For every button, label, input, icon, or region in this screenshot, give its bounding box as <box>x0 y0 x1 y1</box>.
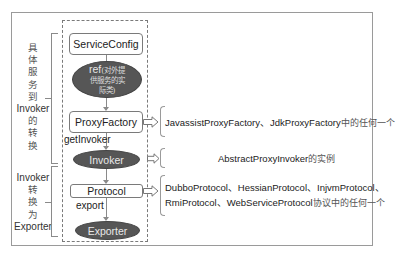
node-label: ProxyFactory <box>75 116 137 128</box>
connector-invoker-protocol <box>106 169 107 180</box>
connector-ref-proxyfactory <box>106 97 107 107</box>
node-protocol: Protocol <box>70 184 143 198</box>
hollow-arrow-icon <box>147 153 160 164</box>
label-char: 务 <box>13 79 53 91</box>
node-exporter: Exporter <box>75 221 140 240</box>
label-char: 的 <box>13 115 53 127</box>
label-word: Invoker <box>13 103 53 115</box>
ref-prefix: ref <box>89 63 101 75</box>
connector-protocol-exporter <box>106 197 107 217</box>
edge-label-getinvoker: getInvoker <box>64 134 111 145</box>
ref-line-1: ref(对外提 <box>89 64 125 76</box>
node-label: Protocol <box>87 185 126 197</box>
label-char: 转 <box>13 127 53 139</box>
node-proxyfactory: ProxyFactory <box>69 111 143 133</box>
left-bracket-bottom <box>51 166 58 237</box>
annotation-suffix: 协议中的任何一个 <box>313 198 385 208</box>
ref-desc: 际类) <box>99 86 116 96</box>
left-bracket-top <box>51 33 58 164</box>
hollow-arrow-icon <box>143 185 159 197</box>
right-brace-invoker <box>160 148 165 168</box>
annotation-protocol: DubboProtocol、HessianProtocol、InjvmProto… <box>165 180 370 211</box>
left-bracket-top-tick <box>45 98 51 99</box>
hollow-arrow-icon <box>143 116 159 128</box>
annotation-text: JavassistProxyFactory、JdkProxyFactory <box>165 117 341 128</box>
ref-desc: 供服务的实 <box>90 76 125 86</box>
annotation-line: DubboProtocol、HessianProtocol、InjvmProto… <box>165 180 370 195</box>
node-label: ServiceConfig <box>73 38 138 50</box>
annotation-invoker: AbstractProxyInvoker的实例 <box>218 151 335 167</box>
annotation-suffix: 中的任何一个 <box>341 118 395 128</box>
label-char: 服 <box>13 66 53 78</box>
node-ref: ref(对外提 供服务的实 际类) <box>72 61 142 98</box>
left-bracket-bottom-tick <box>45 202 51 203</box>
label-char: 换 <box>13 140 53 152</box>
annotation-line: RmiProtocol、WebServiceProtocol协议中的任何一个 <box>165 195 370 211</box>
node-label: Exporter <box>88 225 128 237</box>
annotation-suffix: 的实例 <box>308 154 335 164</box>
label-char: 具 <box>13 42 53 54</box>
annotation-text: AbstractProxyInvoker <box>218 153 308 164</box>
edge-label-export: export <box>76 200 104 211</box>
label-word: Exporter <box>11 221 55 233</box>
annotation-text: RmiProtocol、WebServiceProtocol <box>165 197 313 208</box>
left-label-service-to-invoker: 具 体 服 务 到 Invoker 的 转 换 <box>13 42 53 152</box>
label-char: 转 <box>11 184 55 196</box>
label-char: 为 <box>11 209 55 221</box>
label-word: Invoker <box>11 172 55 184</box>
annotation-proxyfactory: JavassistProxyFactory、JdkProxyFactory中的任… <box>165 115 395 131</box>
label-char: 到 <box>13 91 53 103</box>
node-label: Invoker <box>89 154 123 166</box>
ref-desc: (对外提 <box>101 66 125 75</box>
node-serviceconfig: ServiceConfig <box>69 33 143 55</box>
label-char: 体 <box>13 54 53 66</box>
node-invoker: Invoker <box>73 150 140 169</box>
